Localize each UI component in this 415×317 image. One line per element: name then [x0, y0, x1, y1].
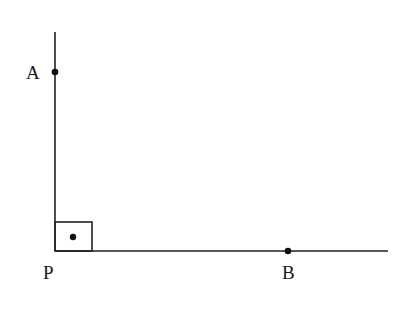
- label-a: A: [26, 62, 40, 83]
- point-a: [52, 69, 59, 76]
- right-angle-dot: [70, 234, 76, 240]
- label-b: B: [282, 262, 295, 283]
- label-p: P: [43, 262, 54, 283]
- point-b: [285, 248, 292, 255]
- right-angle-diagram: A P B: [0, 0, 415, 317]
